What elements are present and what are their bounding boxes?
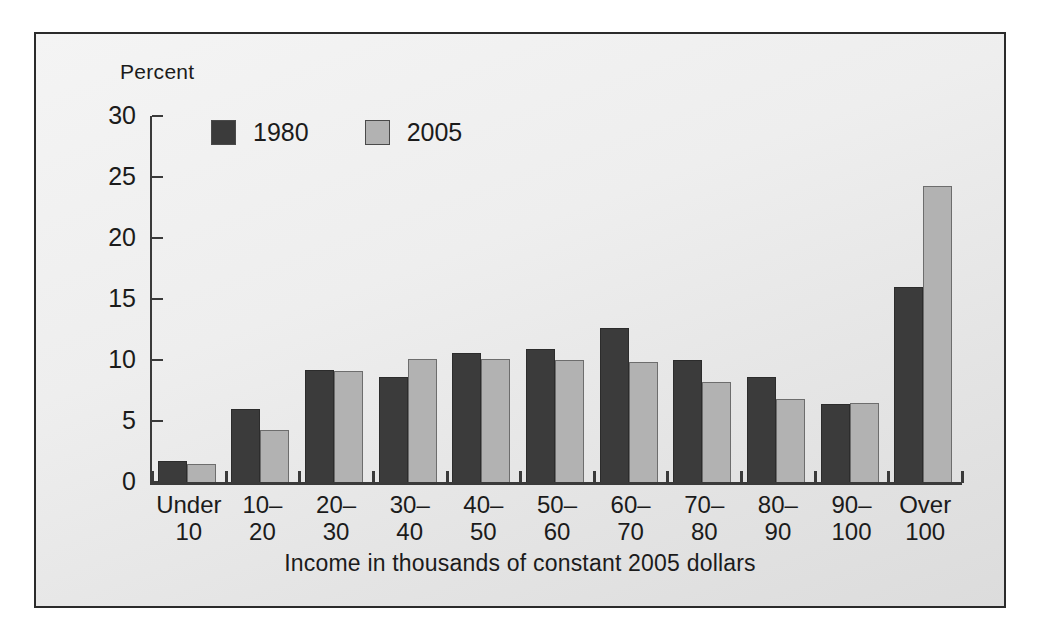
bar-1980 [600,328,629,482]
x-axis-category-label-line1: 20– [316,491,356,518]
x-axis-category-label-line2: 50 [447,519,521,546]
x-axis-category-label: Under10 [152,492,226,546]
bar-2005 [629,362,658,482]
bar-2005 [702,382,731,482]
bar-2005 [408,359,437,482]
bar-1980 [821,404,850,482]
plot-area [150,116,960,482]
x-axis-category-label-line2: 90 [741,519,815,546]
figure-root: Percent 1980 2005 051015202530 Under1010… [0,0,1042,638]
bar-group [821,116,879,482]
bar-1980 [894,287,923,482]
x-axis-category-label: 30–40 [373,492,447,546]
x-axis-category-label-line2: 100 [888,519,962,546]
y-axis-tick-label-20: 20 [90,225,136,250]
bar-2005 [334,371,363,482]
x-axis-category-label-line1: Over [899,491,951,518]
bar-2005 [850,403,879,482]
bar-1980 [379,377,408,482]
bar-group [379,116,437,482]
x-axis-category-label-line1: 80– [758,491,798,518]
x-axis-category-label-line1: 60– [611,491,651,518]
bar-group [452,116,510,482]
x-axis-category-label-line2: 10 [152,519,226,546]
bar-1980 [452,353,481,482]
x-axis-category-label-line1: 50– [537,491,577,518]
bar-2005 [776,399,805,482]
x-axis-tick [740,471,743,483]
x-axis-category-label-line1: Under [156,491,221,518]
x-axis-category-label-line2: 80 [667,519,741,546]
bar-group [526,116,584,482]
x-axis-category-label-line1: 90– [832,491,872,518]
x-axis-tick [961,471,964,483]
x-axis-category-label: 90–100 [815,492,889,546]
bar-group [673,116,731,482]
y-axis-tick-label-10: 10 [90,347,136,372]
x-axis-tick [151,471,154,483]
bar-1980 [673,360,702,482]
y-axis-tick-label-25: 25 [90,164,136,189]
bar-1980 [526,349,555,482]
bar-2005 [555,360,584,482]
bar-group [305,116,363,482]
x-axis-category-label: 40–50 [447,492,521,546]
x-axis-tick [593,471,596,483]
x-axis-category-label: 20–30 [299,492,373,546]
x-axis-tick [887,471,890,483]
x-axis-category-label-line2: 20 [226,519,300,546]
x-axis-category-label-line1: 70– [684,491,724,518]
x-axis-tick [446,471,449,483]
bar-1980 [747,377,776,482]
bar-2005 [260,430,289,482]
bar-1980 [231,409,260,482]
chart-frame: Percent 1980 2005 051015202530 Under1010… [34,32,1006,608]
x-axis-category-label-line2: 30 [299,519,373,546]
bar-1980 [305,370,334,482]
x-axis-category-label-line2: 70 [594,519,668,546]
bar-2005 [481,359,510,482]
x-axis-tick [225,471,228,483]
bar-2005 [923,186,952,482]
x-axis-tick [298,471,301,483]
bar-group [231,116,289,482]
bar-group [600,116,658,482]
y-axis-tick-label-30: 30 [90,103,136,128]
x-axis-title: Income in thousands of constant 2005 dol… [36,550,1004,577]
bar-2005 [187,464,216,482]
bar-group [747,116,805,482]
x-axis-category-label: 60–70 [594,492,668,546]
y-axis-tick-label-5: 5 [90,408,136,433]
x-axis-category-label: 10–20 [226,492,300,546]
x-axis-tick [372,471,375,483]
bar-group [894,116,952,482]
x-axis-category-label: Over100 [888,492,962,546]
x-axis-category-label-line2: 100 [815,519,889,546]
bar-group [158,116,216,482]
y-axis-tick-label-0: 0 [90,469,136,494]
x-axis-category-label-line1: 40– [463,491,503,518]
x-axis-tick [519,471,522,483]
x-axis-category-label-line1: 10– [242,491,282,518]
x-axis-category-label-line2: 40 [373,519,447,546]
bar-1980 [158,461,187,482]
x-axis-category-label: 70–80 [667,492,741,546]
y-axis-title: Percent [120,60,194,84]
x-axis-category-label-line1: 30– [390,491,430,518]
x-axis-tick [814,471,817,483]
y-axis-tick-label-15: 15 [90,286,136,311]
x-axis-line [150,482,962,485]
x-axis-tick [666,471,669,483]
x-axis-category-label-line2: 60 [520,519,594,546]
x-axis-category-label: 80–90 [741,492,815,546]
x-axis-category-label: 50–60 [520,492,594,546]
